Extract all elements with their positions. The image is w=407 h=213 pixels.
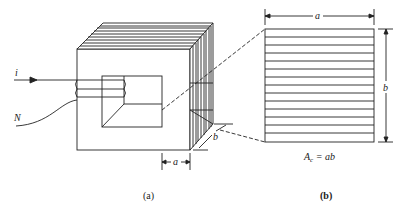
height-label-b: b xyxy=(383,82,388,93)
caption-a: (a) xyxy=(143,190,154,202)
width-label-b: a xyxy=(315,10,320,21)
current-label: i xyxy=(15,67,18,78)
turns-label: N xyxy=(13,112,22,123)
magnetic-core-diagram: i N a b (a) a b Ac = ab (b) xyxy=(0,0,407,213)
current-arrow-icon xyxy=(30,77,37,83)
area-formula: Ac = ab xyxy=(303,151,335,164)
core-front-face xyxy=(77,49,190,150)
depth-label-a: b xyxy=(213,131,218,142)
width-label-a: a xyxy=(173,156,178,167)
cross-section xyxy=(265,29,374,142)
core-top-laminations xyxy=(77,23,213,49)
caption-b: (b) xyxy=(320,190,332,202)
